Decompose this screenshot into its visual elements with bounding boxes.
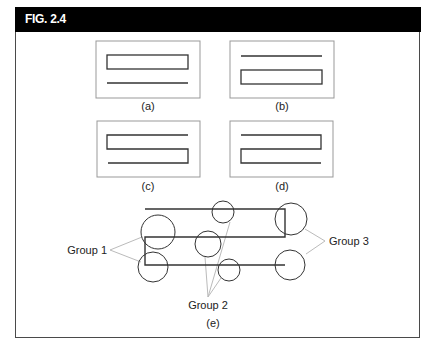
group2-circle-middle xyxy=(195,231,221,257)
group2-circle-top xyxy=(212,201,234,223)
group3-leader-bottom xyxy=(306,241,325,254)
group3-circle-top xyxy=(275,203,307,235)
group2-leader-bottom xyxy=(208,278,221,297)
group2-circle-bottom xyxy=(218,259,240,281)
panel-b-rect xyxy=(241,70,322,84)
panel-a-rect xyxy=(107,55,188,69)
panel-d-path xyxy=(241,135,321,163)
panel-a-label: (a) xyxy=(141,100,154,112)
group3-leader-top xyxy=(305,229,325,241)
figure-diagram: (a) (b) (c) (d) xyxy=(0,0,429,349)
panel-a: (a) xyxy=(96,41,200,112)
circles xyxy=(138,201,307,282)
panel-d-label: (d) xyxy=(275,180,288,192)
panel-b-label: (b) xyxy=(275,100,288,112)
group1-leader-bottom xyxy=(110,250,141,262)
group1-leader-top xyxy=(110,237,142,250)
group2-label: Group 2 xyxy=(188,299,228,311)
panel-d: (d) xyxy=(230,121,333,192)
panel-c: (c) xyxy=(97,121,200,192)
group1-label: Group 1 xyxy=(67,244,107,256)
panel-b: (b) xyxy=(230,41,334,112)
panel-c-path xyxy=(107,135,188,163)
diagram-e: Group 1 Group 2 Group 3 (e) xyxy=(67,201,369,329)
group2-leader-middle xyxy=(205,257,208,297)
group1-circle-top xyxy=(141,215,175,249)
group3-label: Group 3 xyxy=(329,235,369,247)
leader-lines xyxy=(110,222,325,297)
group1-circle-bottom xyxy=(138,252,168,282)
panel-e-label: (e) xyxy=(206,317,219,329)
panel-c-label: (c) xyxy=(142,180,155,192)
